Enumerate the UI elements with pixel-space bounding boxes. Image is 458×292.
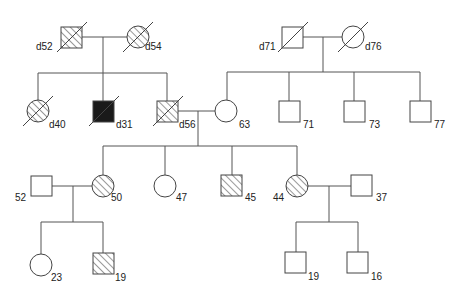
individual-d54[interactable]: d54 [123,22,162,52]
individual-37[interactable]: 37 [351,175,388,203]
individual-label: 50 [111,192,123,203]
individual-label: d71 [259,41,276,52]
individual-label: 19 [308,271,320,282]
individual-label: d40 [49,119,66,130]
individual-label: d31 [116,119,133,130]
individual-label: 45 [245,192,257,203]
individual-71[interactable]: 71 [279,101,315,130]
male-square-icon [93,253,114,274]
individual-label: 73 [369,119,381,130]
individual-50[interactable]: 50 [92,175,123,203]
individual-16[interactable]: 16 [347,252,383,282]
individual-label: d52 [36,41,53,52]
individual-label: 52 [15,192,27,203]
female-circle-icon [286,175,308,197]
individual-63[interactable]: 63 [215,100,251,130]
female-circle-icon [30,254,52,276]
individual-47[interactable]: 47 [154,175,188,203]
male-square-icon [410,101,431,122]
individual-label: 44 [273,192,285,203]
individual-d52[interactable]: d52 [36,22,87,52]
individual-label: 63 [239,119,251,130]
individual-label: d76 [365,41,382,52]
individual-77[interactable]: 77 [410,101,446,130]
male-square-icon [351,175,372,196]
individual-label: d56 [179,119,196,130]
male-square-icon [279,101,300,122]
individual-73[interactable]: 73 [344,101,381,130]
male-square-icon [221,175,242,196]
individual-label: 23 [51,272,63,283]
individual-52[interactable]: 52 [15,176,52,203]
male-square-icon [347,252,368,273]
individual-d76[interactable]: d76 [338,22,382,52]
individual-label: 19 [115,272,127,283]
female-circle-icon [215,100,237,122]
individual-label: 77 [434,119,446,130]
connector-lines [38,37,420,254]
individual-19-right[interactable]: 19 [285,252,320,282]
male-square-icon [344,101,365,122]
individual-45[interactable]: 45 [221,175,257,203]
individual-d56[interactable]: d56 [153,96,196,130]
male-square-icon [31,176,52,196]
female-circle-icon [154,175,176,197]
individual-label: 47 [176,192,188,203]
individual-19-left[interactable]: 19 [93,253,127,283]
individual-label: 37 [376,192,388,203]
individual-d40[interactable]: d40 [23,96,66,130]
pedigree-chart: d52 d54 d71 d76 d40 d31 d56 63 71 [0,0,458,292]
individual-label: 71 [303,119,315,130]
male-square-icon [285,252,306,273]
individual-d71[interactable]: d71 [259,22,308,52]
individual-d31[interactable]: d31 [89,96,133,130]
individual-23[interactable]: 23 [30,254,63,283]
individual-label: d54 [145,41,162,52]
individual-label: 16 [371,271,383,282]
individual-44[interactable]: 44 [273,175,308,203]
